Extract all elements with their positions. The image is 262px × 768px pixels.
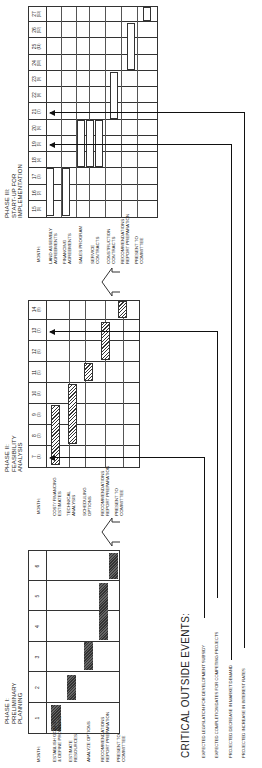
phase3-task-construction: CONSTRUCTION CONTRACTS — [106, 229, 116, 264]
arrow-to-month-21-icon — [49, 110, 55, 116]
phase3-task-present: PRESENT TO COMMITTEE — [134, 236, 144, 264]
phase1-task-goals: ESTABLISH GOALS & DEFINE PROBLEMS — [52, 716, 62, 762]
phase1-task-analyze: ANALYZE OPTIONS — [86, 721, 91, 762]
phase2-bar-present — [118, 301, 127, 318]
phase2-task-cost: COST/ FINANCING ESTIMATES — [52, 477, 62, 516]
phase3-title: PHASE III: START-UP FOR IMPLEMENTATION — [4, 164, 24, 218]
phase3-month-label: MONTH: — [36, 246, 41, 262]
phase2-title: PHASE II: FEASIBILITY ANALYSIS — [4, 435, 24, 472]
phase1-title: PHASE I: PRELIMINARY PLANNING — [4, 682, 24, 724]
phase1-bar-present — [109, 553, 118, 579]
phase1-task-resources: ESTIMATE RESOURCES — [68, 734, 78, 762]
phase3-bar-land — [46, 168, 54, 216]
phase3-bar-present — [127, 23, 135, 70]
phase3-task-service: SERVICE CONTRACTS — [90, 237, 100, 264]
phase1-bar-resources — [67, 675, 76, 700]
phase3-bar-financing — [62, 168, 70, 216]
critical-event-4: PROJECTED INCREASE IN INTEREST RATES — [241, 668, 246, 758]
phase3-task-recommend: RECOMMENDATIONS REPORT PREPARATION — [120, 214, 130, 264]
phase-transition-arrow-1 — [80, 518, 130, 546]
phase3-task-sales: SALES PROGRAM — [78, 226, 83, 264]
phase2-task-recommend: RECOMMENDATIONS REPORT PREPARATION — [100, 466, 110, 516]
phase1-month-1: 1 — [35, 703, 40, 733]
arrow-to-month-7-icon — [49, 455, 55, 461]
phase1-month-label: MONTH: — [36, 746, 41, 762]
event-line-1 — [204, 458, 205, 618]
critical-event-1: EXPECTED LEGISLATION FOR DEVELOPMENT SUB… — [201, 645, 206, 758]
phase2-task-technical: TECHNICAL ANALYSIS — [66, 491, 76, 516]
phase2-grid: 7(1) 8(2) 9(3) 10(4) 11(5) 12(6) 13(7) 1… — [28, 300, 140, 468]
phase2-month-label: MONTH: — [36, 498, 41, 514]
phase2-bar-recommend — [101, 322, 110, 360]
event-line-3 — [231, 145, 232, 660]
phase2-bar-scheduling — [84, 363, 93, 381]
phase1-month-5: 5 — [35, 581, 40, 611]
arrow-to-month-13-icon — [49, 329, 55, 335]
phase3-task-land: LAND ASSEMBLY AGREEMENTS — [48, 228, 58, 264]
phase3-bar-final — [143, 7, 151, 21]
arrow-to-month-19-icon — [49, 142, 55, 148]
phase2-task-present: PRESENT TO COMMITTEE — [114, 488, 124, 516]
phase2-bar-technical — [68, 384, 77, 444]
phase1-grid: 1 2 3 4 5 6 — [28, 550, 120, 734]
phase1-month-6: 6 — [35, 551, 40, 581]
gantt-diagram-rotated: PHASE I: PRELIMINARY PLANNING MONTH: 1 2… — [0, 0, 262, 768]
phase1-task-present: PRESENT TO COMMITTEE — [116, 734, 126, 762]
phase1-task-recommend: RECOMMENDATIONS REPORT PREPARATION — [100, 712, 110, 762]
phase1-month-4: 4 — [35, 611, 40, 642]
phase1-month-2: 2 — [35, 672, 40, 703]
phase-transition-arrow-2 — [80, 268, 130, 296]
critical-event-2: EXPECTED COMPLETION DATES FOR COMPETING … — [214, 632, 219, 758]
event-line-4 — [244, 113, 245, 648]
event-line-2 — [217, 332, 218, 598]
critical-event-3: PROJECTED DECREASE IN MARKET DEMAND — [228, 665, 233, 758]
critical-events-title: CRITICAL OUTSIDE EVENTS: — [180, 613, 191, 758]
phase2-task-scheduling: SCHEDULING OPTIONS — [82, 487, 92, 516]
phase1-bar-recommend — [99, 583, 108, 640]
phase1-month-3: 3 — [35, 642, 40, 672]
phase1-bar-analyze — [84, 642, 93, 670]
phase3-task-financing: FINANCING AGREEMENTS — [62, 233, 72, 264]
